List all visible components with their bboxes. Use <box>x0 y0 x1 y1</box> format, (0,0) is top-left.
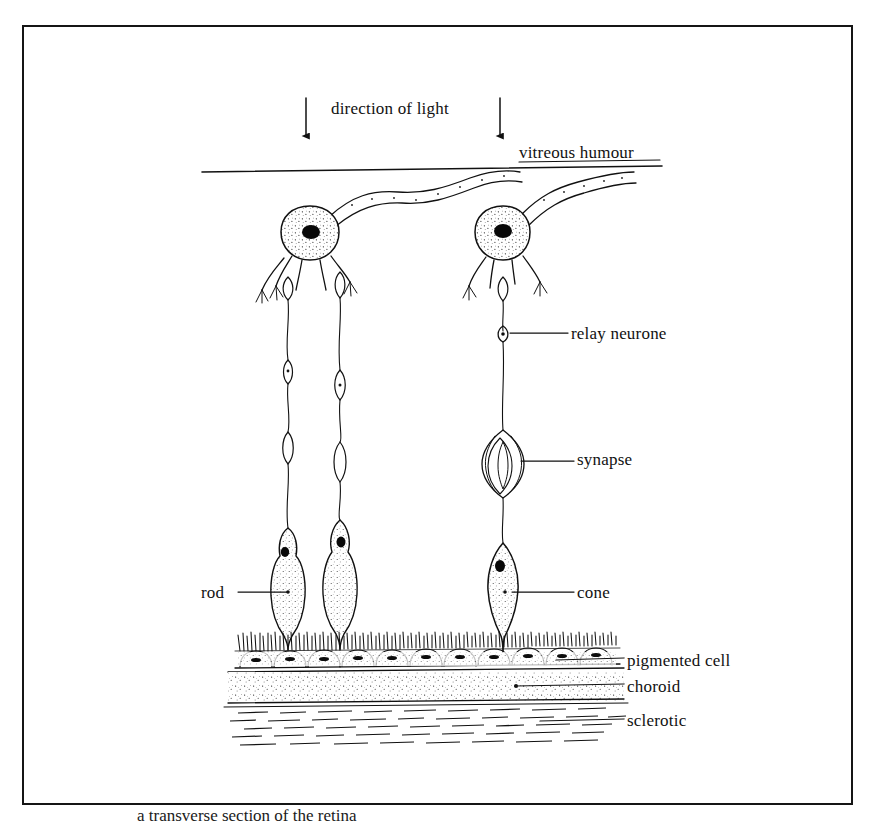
label-relay-neurone: relay neurone <box>571 324 667 344</box>
label-choroid: choroid <box>627 677 680 697</box>
label-direction-of-light: direction of light <box>331 99 449 119</box>
label-cone: cone <box>577 583 610 603</box>
label-synapse: synapse <box>577 450 632 470</box>
label-sclerotic: sclerotic <box>627 711 686 731</box>
label-rod: rod <box>201 583 224 603</box>
figure-caption: a transverse section of the retina <box>137 806 357 821</box>
label-pigmented-cell: pigmented cell <box>627 651 730 671</box>
figure-page: direction of light vitreous humour relay… <box>0 0 874 821</box>
figure-border <box>22 25 853 805</box>
label-vitreous-humour: vitreous humour <box>519 143 634 163</box>
